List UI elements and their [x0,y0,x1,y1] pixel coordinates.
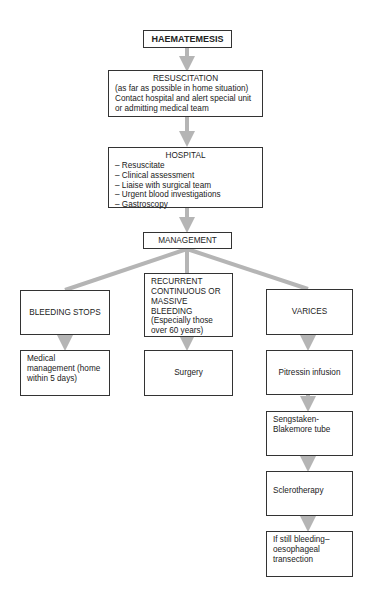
node-oesophageal-transection: If still bleeding–oesophageal transectio… [266,531,353,577]
node-sclerotherapy: Sclerotherapy [266,471,353,516]
node-label: VARICES [292,307,327,317]
list-item: Resuscitate [115,161,256,171]
list-item: Urgent blood investigations [115,190,256,200]
node-heading: HOSPITAL [115,151,256,161]
list-item: Clinical assessment [115,171,256,181]
node-label: If still bleeding–oesophageal transectio… [273,535,329,564]
list-item: Gastroscopy [115,200,256,210]
node-label: HAEMATEMESIS [152,34,224,45]
node-label: BLEEDING STOPS [29,308,100,318]
node-label: Pitressin infusion [279,368,341,378]
node-hospital: HOSPITAL Resuscitate Clinical assessment… [108,147,263,208]
node-label: Surgery [174,368,203,378]
node-body: (as far as possible in home situation) C… [115,84,256,114]
node-label: MANAGEMENT [158,236,217,246]
node-label: RECURRENT CONTINUOUS OR MASSIVE BLEEDING… [151,277,221,335]
node-medical-management: Medical management (home within 5 days) [20,350,110,396]
node-bleeding-stops: BLEEDING STOPS [20,290,110,335]
node-recurrent-bleeding: RECURRENT CONTINUOUS OR MASSIVE BLEEDING… [144,273,233,337]
node-haematemesis: HAEMATEMESIS [143,30,232,48]
node-label: Medical management (home within 5 days) [27,354,100,383]
node-label: Sclerotherapy [273,486,324,495]
list-item: Liaise with surgical team [115,181,256,191]
node-sengstaken-tube: Sengstaken-Blakemore tube [266,411,353,456]
node-varices: VARICES [266,289,353,335]
node-pitressin-infusion: Pitressin infusion [266,350,353,395]
node-management: MANAGEMENT [143,232,232,249]
node-resuscitation: RESUSCITATION (as far as possible in hom… [108,70,263,117]
hospital-list: Resuscitate Clinical assessment Liaise w… [115,161,256,210]
node-surgery: Surgery [144,350,233,396]
node-label: Sengstaken-Blakemore tube [273,415,330,434]
node-heading: RESUSCITATION [115,74,256,84]
